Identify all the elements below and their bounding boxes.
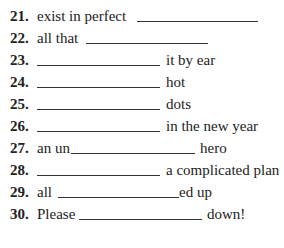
prompt-text-before: all [37, 182, 52, 202]
answer-blank[interactable] [58, 197, 179, 198]
prompt-text-after: dots [166, 94, 191, 114]
answer-blank[interactable] [37, 87, 160, 88]
answer-blank[interactable] [37, 65, 160, 66]
answer-blank[interactable] [37, 175, 160, 176]
item-number: 26. [10, 116, 29, 136]
answer-blank[interactable] [37, 131, 160, 132]
prompt-text-after: ed up [179, 182, 212, 202]
item-number: 23. [10, 50, 29, 70]
item-number: 28. [10, 160, 29, 180]
prompt-text-before: an un [37, 138, 70, 158]
item-number: 25. [10, 94, 29, 114]
prompt-text-before: all that [37, 28, 78, 48]
prompt-text-before: Please [37, 204, 75, 224]
item-number: 30. [10, 204, 29, 224]
answer-blank[interactable] [137, 21, 258, 22]
prompt-text-after: a complicated plan [166, 160, 279, 180]
item-number: 29. [10, 182, 29, 202]
prompt-text-before: exist in perfect [37, 6, 126, 26]
prompt-text-after: in the new year [166, 116, 258, 136]
prompt-text-after: hero [200, 138, 227, 158]
prompt-text-after: hot [166, 72, 185, 92]
answer-blank[interactable] [79, 219, 202, 220]
prompt-text-after: down! [207, 204, 245, 224]
item-number: 21. [10, 6, 29, 26]
item-number: 22. [10, 28, 29, 48]
prompt-text-after: it by ear [166, 50, 215, 70]
item-number: 27. [10, 138, 29, 158]
answer-blank[interactable] [86, 43, 208, 44]
answer-blank[interactable] [37, 109, 160, 110]
answer-blank[interactable] [71, 153, 195, 154]
item-number: 24. [10, 72, 29, 92]
